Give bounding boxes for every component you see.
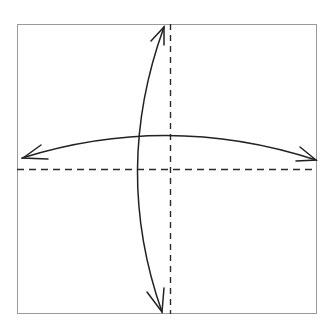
origami-diagram (0, 0, 329, 336)
